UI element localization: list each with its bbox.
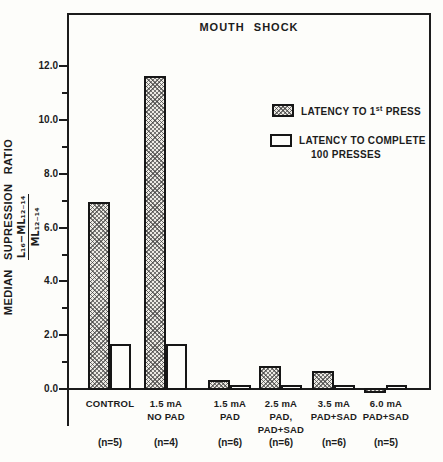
x-category-label: PAD+SAD — [311, 410, 357, 423]
n-label: (n=4) — [154, 437, 178, 448]
y-axis-tick-label: 8.0 — [18, 168, 58, 180]
n-label: (n=6) — [322, 437, 346, 448]
x-category-label: PAD+SAD — [363, 410, 409, 423]
y-axis-major-tick — [59, 173, 67, 175]
y-axis-tick-label: 12.0 — [18, 60, 58, 72]
x-category-label: 2.5 mA — [265, 397, 297, 410]
frame-right-line — [429, 13, 431, 390]
x-category-label: 1.5 mA — [150, 397, 182, 410]
y-axis-minor-tick — [62, 307, 67, 309]
y-axis-line — [67, 13, 69, 426]
y-axis-tick-label: 10.0 — [18, 114, 58, 126]
hatched-swatch-icon — [272, 104, 294, 117]
bar-open-3 — [281, 385, 302, 390]
chart-title: MOUTH SHOCK — [68, 21, 430, 33]
y-axis-major-tick — [59, 65, 67, 67]
y-axis-major-tick — [59, 334, 67, 336]
x-category-label: CONTROL — [86, 397, 134, 410]
bar-hatched-3 — [259, 366, 281, 390]
x-category-label: 6.0 mA — [370, 397, 402, 410]
y-axis-major-tick — [59, 388, 67, 390]
y-axis-major-tick — [59, 227, 67, 229]
bar-chart-figure: MOUTH SHOCK MEDIAN SUPRESSION RATIO L₁₆−… — [0, 0, 443, 462]
legend-label-complete-line1: LATENCY TO COMPLETE — [299, 135, 426, 146]
bar-hatched-5 — [364, 388, 386, 393]
bar-hatched-0 — [88, 202, 110, 390]
bar-hatched-2 — [208, 380, 230, 390]
x-category-label: 1.5 mA — [214, 397, 246, 410]
y-axis-tick-label: 0.0 — [18, 383, 58, 395]
y-axis-minor-tick — [62, 146, 67, 148]
bar-open-0 — [110, 344, 131, 390]
x-category-label: PAD — [220, 410, 240, 423]
bar-open-2 — [230, 385, 251, 390]
bar-hatched-4 — [312, 371, 334, 390]
bar-open-5 — [386, 385, 407, 390]
n-label: (n=5) — [374, 437, 398, 448]
n-label: (n=5) — [98, 437, 122, 448]
y-axis-minor-tick — [62, 254, 67, 256]
x-category-label: NO PAD — [147, 410, 184, 423]
y-axis-major-tick — [59, 119, 67, 121]
n-label: (n=6) — [269, 437, 293, 448]
y-axis-label-text: MEDIAN SUPRESSION RATIO — [2, 139, 14, 315]
x-category-label: 3.5 mA — [318, 397, 350, 410]
bar-open-4 — [334, 385, 355, 390]
y-axis-tick-label: 6.0 — [18, 222, 58, 234]
legend-label-complete-line2: 100 PRESSES — [311, 149, 381, 160]
y-axis-tick-label: 4.0 — [18, 275, 58, 287]
y-axis-tick-label: 2.0 — [18, 329, 58, 341]
legend-label-first-press: LATENCY TO 1st PRESS — [301, 105, 421, 117]
y-axis-minor-tick — [62, 361, 67, 363]
n-label: (n=6) — [218, 437, 242, 448]
x-category-label: PAD+SAD — [258, 423, 304, 436]
y-axis-minor-tick — [62, 200, 67, 202]
open-swatch-icon — [270, 134, 292, 147]
bar-open-1 — [166, 344, 187, 390]
x-category-label: PAD, — [270, 410, 293, 423]
y-axis-major-tick — [59, 280, 67, 282]
bar-hatched-1 — [144, 76, 166, 390]
frame-top-line — [67, 13, 431, 15]
y-axis-minor-tick — [62, 92, 67, 94]
